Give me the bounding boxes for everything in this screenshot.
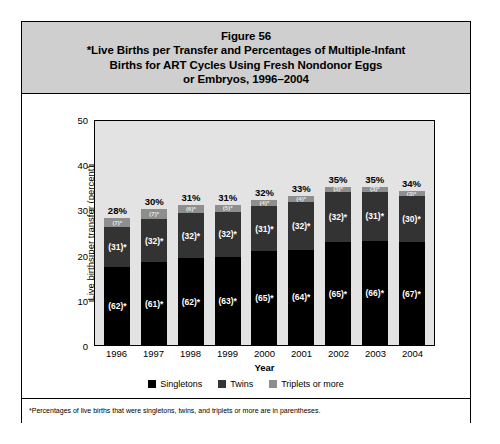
bar-column[interactable]: 28%(7)*(31)*(62)*: [104, 121, 130, 345]
legend-label: Singletons: [160, 379, 202, 389]
stacked-bar[interactable]: 32%(4)*(31)*(65)*: [251, 200, 277, 345]
bar-segment-label: (32)*: [329, 212, 347, 222]
bar-segment-twins[interactable]: (32)*: [178, 213, 204, 258]
legend-item-singletons[interactable]: Singletons: [148, 379, 202, 389]
bar-segment-twins[interactable]: (32)*: [215, 212, 241, 257]
chart-legend: SingletonsTwinsTriplets or more: [22, 379, 470, 389]
legend-item-triplets-or-more[interactable]: Triplets or more: [269, 379, 344, 389]
bar-column[interactable]: 35%(3)*(31)*(66)*: [362, 121, 388, 345]
bar-segment-twins[interactable]: (30)*: [399, 196, 425, 242]
bar-total-label: 31%: [181, 192, 200, 203]
bar-segment-label: (32)*: [218, 229, 236, 239]
legend-swatch-icon: [269, 380, 277, 388]
figure-number: Figure 56: [221, 29, 271, 44]
x-axis-title: Year: [94, 362, 435, 373]
bar-segment-twins[interactable]: (32)*: [288, 202, 314, 250]
plot-area: 28%(7)*(31)*(62)*30%(7)*(32)*(61)*31%(6)…: [94, 120, 435, 346]
bar-segment-label: (31)*: [255, 224, 273, 234]
stacked-bar[interactable]: 35%(3)*(31)*(66)*: [362, 187, 388, 345]
bar-segment-twins[interactable]: (32)*: [325, 192, 351, 243]
legend-label: Twins: [230, 379, 253, 389]
bar-segment-label: (30)*: [402, 214, 420, 224]
bar-segment-singletons[interactable]: (66)*: [362, 241, 388, 345]
legend-swatch-icon: [148, 380, 156, 388]
bar-segment-singletons[interactable]: (65)*: [251, 251, 277, 345]
bar-column[interactable]: 34%(3)*(30)*(67)*: [399, 121, 425, 345]
bar-segment-singletons[interactable]: (67)*: [399, 242, 425, 345]
bar-segment-label: (32)*: [292, 221, 310, 231]
bar-segment-label: (5)*: [223, 205, 233, 211]
y-axis-tick-label: 50: [77, 115, 88, 126]
bar-total-label: 32%: [255, 187, 274, 198]
bar-segment-singletons[interactable]: (61)*: [141, 262, 167, 345]
bar-column[interactable]: 31%(6)*(32)*(62)*: [178, 121, 204, 345]
y-axis: Live births per transfer (percent) 01020…: [54, 120, 94, 346]
stacked-bar[interactable]: 33%(4)*(32)*(64)*: [288, 196, 314, 345]
figure-title-line-2: Births for ART Cycles Using Fresh Nondon…: [110, 58, 383, 73]
bar-segment-label: (61)*: [145, 299, 163, 309]
legend-swatch-icon: [218, 380, 226, 388]
bar-segment-singletons[interactable]: (65)*: [325, 242, 351, 345]
figure-title-line-3: or Embryos, 1996–2004: [183, 72, 309, 87]
stacked-bar[interactable]: 34%(3)*(30)*(67)*: [399, 191, 425, 345]
stacked-bar[interactable]: 31%(6)*(32)*(62)*: [178, 205, 204, 345]
bar-segment-label: (32)*: [145, 236, 163, 246]
bar-segment-label: (67)*: [402, 289, 420, 299]
bar-total-label: 34%: [402, 178, 421, 189]
bar-segment-singletons[interactable]: (62)*: [104, 267, 130, 345]
bar-segment-triplets-or-more[interactable]: (7)*: [104, 218, 130, 227]
bar-segment-triplets-or-more[interactable]: (5)*: [215, 205, 241, 212]
footnote-text: *Percentages of live births that were si…: [22, 407, 320, 414]
y-axis-tick-label: 10: [77, 295, 88, 306]
bar-column[interactable]: 31%(5)*(32)*(63)*: [215, 121, 241, 345]
bar-segment-label: (65)*: [255, 293, 273, 303]
bar-column[interactable]: 30%(7)*(32)*(61)*: [141, 121, 167, 345]
bar-segment-triplets-or-more[interactable]: (6)*: [178, 205, 204, 213]
bar-segment-label: (65)*: [329, 289, 347, 299]
bar-segment-label: (6)*: [186, 206, 196, 212]
stacked-bar[interactable]: 31%(5)*(32)*(63)*: [215, 205, 241, 345]
y-axis-tick-label: 20: [77, 250, 88, 261]
bar-segment-label: (7)*: [113, 220, 123, 226]
bar-segment-singletons[interactable]: (64)*: [288, 250, 314, 345]
bar-total-label: 33%: [292, 183, 311, 194]
bar-segment-triplets-or-more[interactable]: (7)*: [141, 209, 167, 218]
y-axis-tick-label: 30: [77, 205, 88, 216]
figure-title-band: Figure 56 *Live Births per Transfer and …: [22, 22, 470, 94]
bar-segment-label: (64)*: [292, 292, 310, 302]
bar-segment-twins[interactable]: (32)*: [141, 219, 167, 262]
bar-column[interactable]: 35%(3)*(32)*(65)*: [325, 121, 351, 345]
bar-segment-label: (62)*: [182, 297, 200, 307]
bar-group: 28%(7)*(31)*(62)*30%(7)*(32)*(61)*31%(6)…: [95, 121, 434, 345]
bar-segment-label: (7)*: [149, 211, 159, 217]
chart-body: Live births per transfer (percent) 01020…: [22, 94, 470, 423]
bar-total-label: 35%: [365, 174, 384, 185]
bar-segment-label: (31)*: [366, 211, 384, 221]
bar-column[interactable]: 32%(4)*(31)*(65)*: [251, 121, 277, 345]
bar-total-label: 35%: [328, 174, 347, 185]
bar-total-label: 31%: [218, 192, 237, 203]
stacked-bar[interactable]: 30%(7)*(32)*(61)*: [141, 209, 167, 345]
y-axis-tick-label: 0: [83, 341, 88, 352]
bar-segment-label: (32)*: [182, 231, 200, 241]
stacked-bar[interactable]: 35%(3)*(32)*(65)*: [325, 187, 351, 345]
bar-segment-label: (66)*: [366, 288, 384, 298]
bar-segment-label: (62)*: [108, 301, 126, 311]
bar-total-label: 28%: [108, 205, 127, 216]
bar-segment-label: (31)*: [108, 242, 126, 252]
bar-segment-twins[interactable]: (31)*: [104, 227, 130, 266]
bar-total-label: 30%: [145, 196, 164, 207]
bar-segment-singletons[interactable]: (63)*: [215, 257, 241, 345]
bar-column[interactable]: 33%(4)*(32)*(64)*: [288, 121, 314, 345]
footnote-band: *Percentages of live births that were si…: [22, 398, 470, 422]
figure-container: Figure 56 *Live Births per Transfer and …: [21, 21, 471, 423]
legend-item-twins[interactable]: Twins: [218, 379, 253, 389]
bar-segment-twins[interactable]: (31)*: [362, 192, 388, 241]
legend-label: Triplets or more: [281, 379, 344, 389]
figure-title-line-1: *Live Births per Transfer and Percentage…: [87, 43, 406, 58]
stacked-bar[interactable]: 28%(7)*(31)*(62)*: [104, 218, 130, 345]
bar-segment-label: (63)*: [218, 296, 236, 306]
bar-segment-singletons[interactable]: (62)*: [178, 258, 204, 345]
bar-segment-twins[interactable]: (31)*: [251, 206, 277, 251]
y-axis-tick-label: 40: [77, 160, 88, 171]
